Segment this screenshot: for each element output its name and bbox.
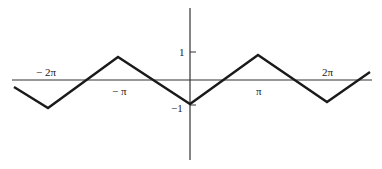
label-two-pi: 2π	[322, 66, 334, 78]
label-pi: π	[256, 85, 262, 97]
label-neg-two-pi: − 2π	[36, 66, 56, 78]
label-neg-pi: − π	[112, 85, 127, 97]
label-y-neg-one: −1	[171, 102, 183, 114]
triangle-wave-curve	[14, 55, 370, 108]
label-y-one: 1	[179, 46, 185, 58]
triangle-wave-chart: − 2π − π π 2π 1 −1	[0, 0, 382, 169]
